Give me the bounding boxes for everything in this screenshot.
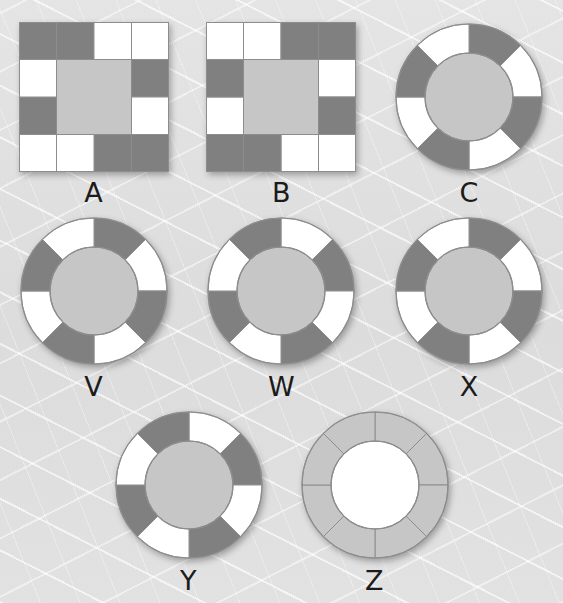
figure-A[interactable] bbox=[19, 22, 169, 172]
figure-C[interactable] bbox=[394, 22, 544, 172]
figure-label-B: B bbox=[272, 179, 291, 206]
figure-V[interactable] bbox=[19, 216, 169, 366]
figure-cell-Z[interactable]: Z bbox=[300, 410, 450, 594]
figure-cell-V[interactable]: V bbox=[0, 216, 188, 410]
figure-cell-A[interactable]: A bbox=[0, 22, 188, 216]
figure-label-Y: Y bbox=[180, 567, 197, 594]
figure-label-Z: Z bbox=[365, 567, 384, 594]
figure-W[interactable] bbox=[206, 216, 356, 366]
figure-cell-C[interactable]: C bbox=[375, 22, 563, 216]
figure-label-A: A bbox=[84, 179, 103, 206]
figure-cell-B[interactable]: B bbox=[188, 22, 376, 216]
figure-cell-Y[interactable]: Y bbox=[114, 410, 264, 594]
figure-B[interactable] bbox=[206, 22, 356, 172]
figure-Y[interactable] bbox=[114, 410, 264, 560]
figure-label-V: V bbox=[84, 373, 103, 400]
figure-label-W: W bbox=[268, 373, 295, 400]
figure-label-C: C bbox=[459, 179, 478, 206]
figure-cell-W[interactable]: W bbox=[188, 216, 376, 410]
figure-cell-X[interactable]: X bbox=[375, 216, 563, 410]
figure-Z[interactable] bbox=[300, 410, 450, 560]
figure-X[interactable] bbox=[394, 216, 544, 366]
figure-label-X: X bbox=[460, 373, 479, 400]
figures-row-3: Y Z bbox=[0, 410, 563, 594]
